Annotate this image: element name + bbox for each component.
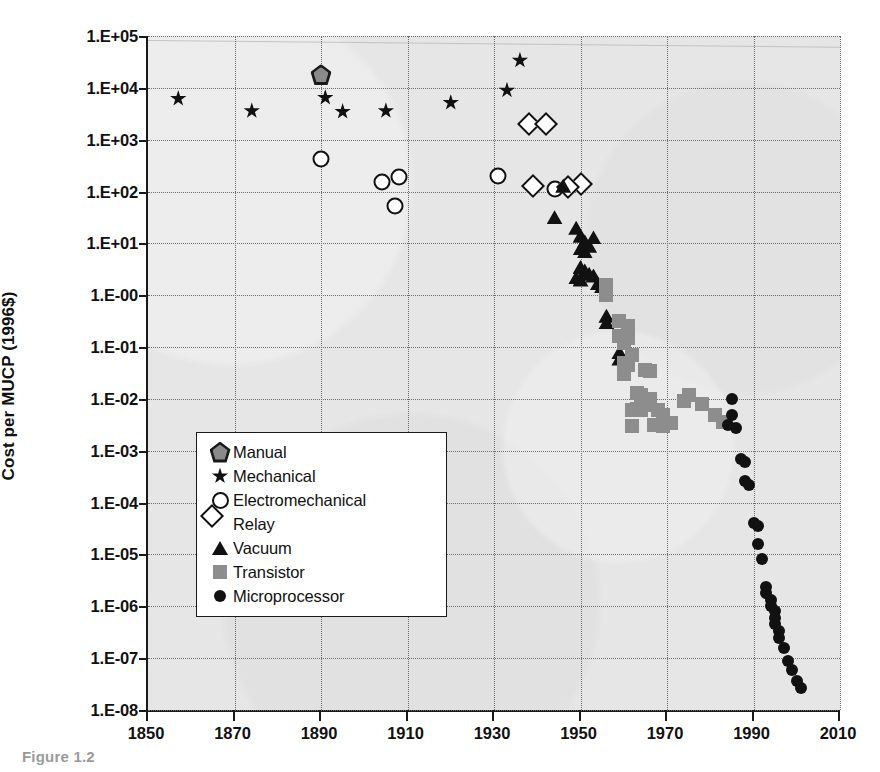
marker-electromechanical <box>490 167 507 184</box>
legend-swatch <box>207 492 233 509</box>
marker-transistor <box>643 364 657 378</box>
y-axis-tick-label: 1.E-04 <box>91 493 138 512</box>
gridline-vertical <box>840 36 841 710</box>
legend-label: Manual <box>233 443 287 462</box>
marker-microprocessor <box>722 419 734 431</box>
marker-vacuum <box>598 315 614 329</box>
marker-vacuum <box>611 352 627 366</box>
marker-transistor <box>651 403 665 417</box>
marker-transistor <box>625 419 639 433</box>
x-axis-tick-label: 2010 <box>820 724 857 743</box>
legend-item-manual[interactable]: Manual <box>207 440 436 464</box>
legend-swatch <box>207 565 233 579</box>
x-axis-tick-label: 1990 <box>733 724 770 743</box>
legend-item-mechanical[interactable]: Mechanical <box>207 464 436 488</box>
x-axis-tick-label: 1930 <box>474 724 511 743</box>
x-axis-tick <box>406 710 408 721</box>
legend-item-electromechanical[interactable]: Electromechanical <box>207 488 436 512</box>
marker-electromechanical <box>390 169 407 186</box>
marker-relay <box>517 112 541 136</box>
marker-mechanical <box>243 102 260 119</box>
gridline-vertical <box>754 36 755 710</box>
marker-transistor <box>647 418 661 432</box>
legend-swatch <box>207 590 233 602</box>
marker-vacuum <box>577 244 593 258</box>
marker-microprocessor <box>730 422 742 434</box>
y-axis-tick <box>139 658 148 660</box>
marker-electromechanical <box>212 492 229 509</box>
marker-microprocessor <box>769 612 781 624</box>
marker-transistor <box>634 403 648 417</box>
marker-microprocessor <box>735 453 747 465</box>
x-axis-tick-label: 1890 <box>301 724 338 743</box>
legend-swatch <box>207 468 233 485</box>
marker-vacuum <box>594 279 610 293</box>
marker-vacuum <box>585 269 601 283</box>
marker-microprocessor <box>214 590 226 602</box>
marker-transistor <box>625 348 639 362</box>
marker-electromechanical <box>373 174 390 191</box>
y-axis-tick <box>139 503 148 505</box>
marker-vacuum <box>585 230 601 244</box>
marker-vacuum <box>581 267 597 281</box>
marker-vacuum <box>581 239 597 253</box>
marker-relay <box>521 174 545 198</box>
legend-label: Electromechanical <box>233 491 366 510</box>
x-axis-tick-label: 1950 <box>560 724 597 743</box>
marker-mechanical <box>334 103 351 120</box>
marker-transistor <box>708 408 722 422</box>
marker-mechanical <box>212 468 229 485</box>
y-axis-tick <box>139 347 148 349</box>
marker-microprocessor <box>726 409 738 421</box>
marker-microprocessor <box>760 587 772 599</box>
y-axis-tick-label: 1.E+03 <box>86 130 138 149</box>
marker-mechanical <box>442 94 459 111</box>
marker-transistor <box>643 398 657 412</box>
marker-transistor <box>630 386 644 400</box>
marker-microprocessor <box>773 632 785 644</box>
y-axis-tick-label: 1.E-03 <box>91 441 138 460</box>
marker-mechanical <box>498 82 515 99</box>
legend-label: Mechanical <box>233 467 315 486</box>
y-axis-tick-label: 1.E-07 <box>91 649 138 668</box>
marker-transistor <box>213 565 227 579</box>
marker-microprocessor <box>739 475 751 487</box>
x-axis-tick-label: 1910 <box>387 724 424 743</box>
legend-item-vacuum[interactable]: Vacuum <box>207 536 436 560</box>
x-axis-tick <box>146 710 148 721</box>
legend-swatch <box>207 516 233 533</box>
y-axis-tick-label: 1.E-02 <box>91 389 138 408</box>
legend-label: Transistor <box>233 563 305 582</box>
marker-transistor <box>630 402 644 416</box>
marker-microprocessor <box>739 456 751 468</box>
marker-microprocessor <box>760 581 772 593</box>
marker-vacuum <box>568 221 584 235</box>
legend-swatch <box>207 442 233 463</box>
y-axis-tick-label: 1.E-06 <box>91 597 138 616</box>
x-axis-tick-label: 1970 <box>647 724 684 743</box>
y-axis-tick <box>139 554 148 556</box>
x-axis-tick-label: 1870 <box>214 724 251 743</box>
marker-microprocessor <box>786 664 798 676</box>
legend-item-microprocessor[interactable]: Microprocessor <box>207 584 436 608</box>
marker-vacuum <box>568 270 584 284</box>
marker-microprocessor <box>769 618 781 630</box>
x-axis-tick <box>319 710 321 721</box>
y-axis-tick <box>139 88 148 90</box>
y-axis-tick-label: 1.E-05 <box>91 545 138 564</box>
marker-vacuum <box>555 179 571 193</box>
marker-transistor <box>621 319 635 333</box>
y-axis-tick-label: 1.E+02 <box>86 182 138 201</box>
chart-legend: ManualMechanicalElectromechanicalRelayVa… <box>196 432 447 617</box>
marker-mechanical <box>170 90 187 107</box>
marker-vacuum <box>590 276 606 290</box>
y-axis-tick-label: 1.E-08 <box>91 701 138 720</box>
y-axis-tick-label: 1.E-01 <box>91 338 138 357</box>
marker-transistor <box>617 356 631 370</box>
legend-item-transistor[interactable]: Transistor <box>207 560 436 584</box>
marker-transistor <box>599 278 613 292</box>
legend-item-relay[interactable]: Relay <box>207 512 436 536</box>
marker-vacuum <box>212 541 228 555</box>
marker-electromechanical <box>386 198 403 215</box>
marker-vacuum <box>577 263 593 277</box>
